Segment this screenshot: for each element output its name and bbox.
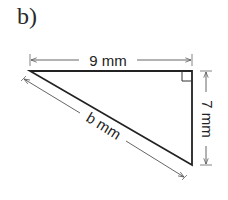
right-dimension: 7 mm xyxy=(199,71,216,165)
right-dimension-label: 7 mm xyxy=(199,100,216,138)
triangle xyxy=(30,71,192,165)
top-dimension-label: 9 mm xyxy=(89,52,127,69)
top-dimension: 9 mm xyxy=(30,52,192,69)
triangle-diagram: 9 mm 7 mm b mm xyxy=(0,0,228,200)
right-angle-marker xyxy=(182,71,192,81)
hypotenuse-dimension: b mm xyxy=(21,76,187,180)
